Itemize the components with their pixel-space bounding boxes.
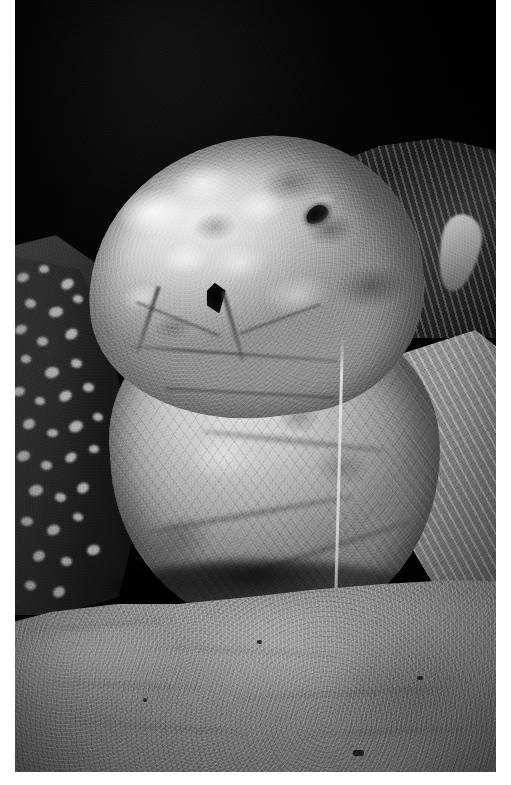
page-margin-bottom <box>0 772 511 785</box>
flipper-spot <box>82 382 94 393</box>
flipper-spot <box>37 336 49 346</box>
flipper-spot <box>76 481 91 495</box>
page-margin-left <box>0 0 15 785</box>
flipper-spot <box>64 451 79 465</box>
flipper-spot <box>60 277 76 291</box>
flipper-spot <box>58 389 74 403</box>
flipper-spot <box>28 484 44 497</box>
flipper-spot <box>44 366 60 379</box>
flipper-spot <box>72 293 84 304</box>
flipper-spot <box>16 272 30 284</box>
flipper-spot <box>24 579 37 591</box>
flipper-spot <box>16 450 31 462</box>
sand-grain-texture <box>15 580 496 772</box>
flipper-spot <box>24 298 37 310</box>
flipper-spot <box>21 516 34 526</box>
flipper-spot <box>88 444 99 453</box>
flipper-spot <box>86 544 100 556</box>
flipper-spot <box>38 264 49 273</box>
flipper-spot <box>22 418 36 431</box>
flipper-spot <box>72 511 84 523</box>
flipper-spot <box>46 524 61 537</box>
flipper-spot <box>47 429 59 438</box>
flipper-spot <box>54 492 67 504</box>
flipper-spot <box>60 556 73 567</box>
flipper-spot <box>15 386 25 396</box>
leatherback-sea-turtle-photo <box>15 0 496 772</box>
flipper-spot <box>40 460 53 471</box>
flipper-spot <box>63 327 79 342</box>
flipper-spot <box>15 323 28 335</box>
flipper-spot <box>92 411 104 422</box>
flipper-spot <box>48 306 63 318</box>
sand-foreground <box>15 580 496 772</box>
flipper-spot <box>68 419 85 434</box>
flipper-spot <box>20 354 31 364</box>
page-margin-right <box>496 0 511 785</box>
flipper-spot <box>32 549 47 562</box>
flipper-spot <box>51 585 66 599</box>
flipper-spot <box>34 396 46 407</box>
page-root <box>0 0 511 785</box>
flipper-spot <box>70 357 83 369</box>
